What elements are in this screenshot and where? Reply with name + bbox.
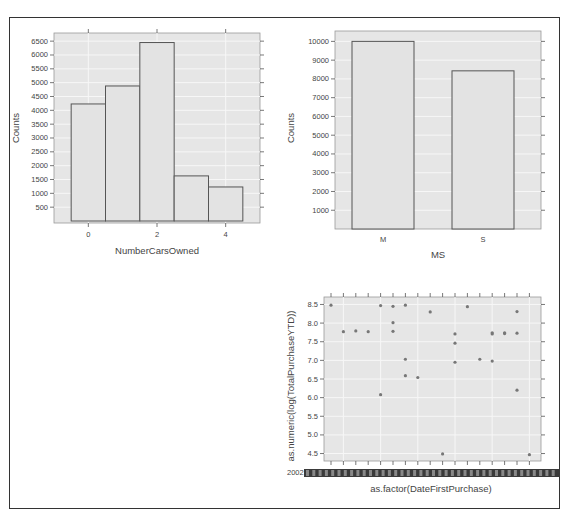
data-point — [429, 310, 432, 313]
x-tick-labels-overlapping: 2002 — [287, 468, 560, 477]
y-tick-label: 8000 — [312, 74, 329, 83]
label-glyph — [331, 470, 334, 476]
label-glyph — [508, 470, 511, 476]
y-axis-title: as.numeric(log(TotalPurchaseYTD)) — [285, 311, 296, 462]
data-point — [379, 393, 382, 396]
y-tick-label: 6000 — [31, 50, 48, 59]
y-tick-label: 8.0 — [308, 319, 318, 328]
label-glyph — [344, 470, 347, 476]
label-glyph — [514, 470, 517, 476]
y-tick-label: 2000 — [31, 161, 48, 170]
data-point — [453, 342, 456, 345]
figure-canvas: 5001000150020002500300035004000450050005… — [0, 0, 568, 523]
x-axis-title: MS — [431, 249, 445, 260]
data-point — [391, 321, 394, 324]
y-tick-label: 5500 — [31, 64, 48, 73]
y-tick-label: 1000 — [312, 206, 329, 215]
label-glyph — [438, 470, 441, 476]
label-glyph — [501, 470, 504, 476]
label-glyph — [520, 470, 523, 476]
y-tick-label: 2500 — [31, 147, 48, 156]
y-tick-label: 6.0 — [308, 393, 318, 402]
data-point — [354, 329, 357, 332]
x-axis-title: as.factor(DateFirstPurchase) — [370, 483, 491, 494]
data-point — [453, 332, 456, 335]
bar — [174, 176, 208, 221]
y-tick-label: 6.5 — [308, 375, 318, 384]
data-point — [391, 305, 394, 308]
y-tick-label: 6500 — [31, 37, 48, 46]
y-tick-label: 1500 — [31, 175, 48, 184]
bar — [452, 71, 514, 229]
label-glyph — [375, 470, 378, 476]
y-tick-label: 7.5 — [308, 337, 318, 346]
y-tick-label: 5000 — [31, 78, 48, 87]
label-glyph — [533, 470, 536, 476]
y-tick-label: 3000 — [312, 168, 329, 177]
y-tick-label: 2000 — [312, 187, 329, 196]
chart-number-cars-owned: 5001000150020002500300035004000450050005… — [10, 29, 264, 256]
label-glyph — [325, 470, 328, 476]
label-glyph — [527, 470, 530, 476]
label-glyph — [451, 470, 454, 476]
data-point — [391, 330, 394, 333]
y-tick-label: 3000 — [31, 133, 48, 142]
label-glyph — [388, 470, 391, 476]
bar — [209, 187, 243, 221]
data-point — [379, 304, 382, 307]
data-point — [478, 358, 481, 361]
label-glyph — [306, 470, 309, 476]
label-glyph — [539, 470, 542, 476]
label-glyph — [432, 470, 435, 476]
y-tick-label: 5000 — [312, 131, 329, 140]
data-point — [466, 305, 469, 308]
data-point — [404, 304, 407, 307]
label-glyph — [419, 470, 422, 476]
y-tick-label: 4000 — [312, 149, 329, 158]
data-point — [404, 358, 407, 361]
bar — [71, 104, 105, 221]
data-point — [515, 389, 518, 392]
bar — [106, 86, 140, 221]
data-point — [515, 332, 518, 335]
label-glyph — [495, 470, 498, 476]
label-glyph — [363, 470, 366, 476]
y-tick-label: 4.5 — [308, 449, 318, 458]
y-tick-label: 1000 — [31, 189, 48, 198]
label-glyph — [413, 470, 416, 476]
label-glyph — [464, 470, 467, 476]
data-point — [441, 452, 444, 455]
chart-marital-status: 1000200030004000500060007000800090001000… — [285, 31, 545, 260]
x-tick-label: 2002 — [287, 468, 304, 477]
label-glyph — [482, 470, 485, 476]
y-tick-label: 9000 — [312, 56, 329, 65]
y-tick-label: 4500 — [31, 92, 48, 101]
bar — [352, 41, 414, 229]
y-axis-title: Counts — [285, 113, 296, 143]
y-axis-title: Counts — [10, 113, 21, 143]
y-tick-label: 5.5 — [308, 412, 318, 421]
y-tick-label: 4000 — [31, 106, 48, 115]
data-point — [329, 304, 332, 307]
label-glyph — [401, 470, 404, 476]
label-glyph — [407, 470, 410, 476]
x-tick-label: S — [480, 235, 485, 244]
chart-scatter-purchase: 4.55.05.56.06.57.07.58.08.5 2002 as.fact… — [285, 293, 560, 494]
data-point — [367, 330, 370, 333]
label-glyph — [394, 470, 397, 476]
label-glyph — [545, 470, 548, 476]
bar — [140, 43, 174, 221]
y-tick-label: 7.0 — [308, 356, 318, 365]
y-tick-label: 7000 — [312, 93, 329, 102]
label-glyph — [338, 470, 341, 476]
data-point — [491, 332, 494, 335]
label-glyph — [470, 470, 473, 476]
y-tick-label: 5.0 — [308, 430, 318, 439]
label-glyph — [319, 470, 322, 476]
label-glyph — [552, 470, 555, 476]
label-glyph — [312, 470, 315, 476]
x-tick-label: 0 — [86, 230, 90, 239]
label-glyph — [369, 470, 372, 476]
y-tick-label: 6000 — [312, 112, 329, 121]
label-glyph — [489, 470, 492, 476]
